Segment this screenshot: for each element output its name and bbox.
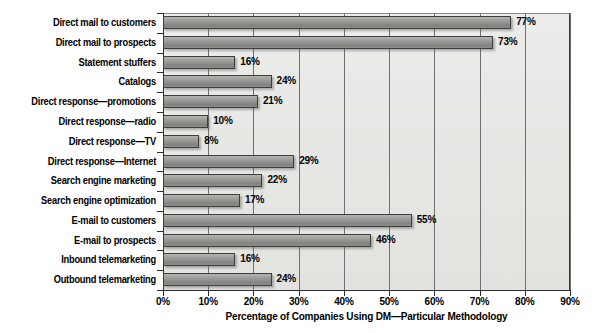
bar-row: 24% (163, 72, 570, 92)
bar-row: 21% (163, 92, 570, 112)
x-axis-tick-label: 0% (143, 296, 183, 307)
bar[interactable] (163, 16, 511, 29)
y-axis-category-labels: Direct mail to customersDirect mail to p… (0, 13, 156, 290)
bar-value-label: 21% (263, 94, 282, 108)
bar-value-label: 73% (498, 35, 517, 49)
x-axis-line (163, 290, 571, 291)
x-axis-tick-label: 60% (414, 296, 454, 307)
bar[interactable] (163, 135, 199, 148)
y-axis-category-label: Catalogs (11, 76, 156, 88)
y-axis-category-label: Direct response—Internet (11, 156, 156, 168)
bar[interactable] (163, 174, 262, 187)
bar[interactable] (163, 75, 272, 88)
bar-row: 8% (163, 132, 570, 152)
bar-value-label: 10% (213, 114, 232, 128)
bar[interactable] (163, 194, 240, 207)
bar[interactable] (163, 36, 493, 49)
bar-value-label: 16% (240, 252, 259, 266)
bar-row: 46% (163, 231, 570, 251)
y-axis-category-label: Direct mail to prospects (11, 37, 156, 49)
bar[interactable] (163, 155, 294, 168)
bar-value-label: 16% (240, 55, 259, 69)
y-axis-tick (157, 290, 163, 291)
bar-value-label: 55% (417, 213, 436, 227)
y-axis-category-label: Direct response—TV (11, 136, 156, 148)
bar-chart: Direct mail to customersDirect mail to p… (0, 0, 598, 333)
y-axis-category-label: Inbound telemarketing (11, 254, 156, 266)
bar-row: 17% (163, 191, 570, 211)
x-axis-tick-label: 40% (324, 296, 364, 307)
y-axis-category-label: Outbound telemarketing (11, 274, 156, 286)
y-axis-category-label: Direct mail to customers (11, 17, 156, 29)
bar-row: 55% (163, 211, 570, 231)
bar-row: 73% (163, 33, 570, 53)
x-axis-tick-label: 50% (369, 296, 409, 307)
bar[interactable] (163, 273, 272, 286)
y-axis-category-label: Search engine optimization (11, 195, 156, 207)
x-axis-tick-label: 10% (188, 296, 228, 307)
bar-value-label: 29% (299, 154, 318, 168)
x-axis-tick-label: 70% (460, 296, 500, 307)
bar-row: 29% (163, 152, 570, 172)
y-axis-category-label: E-mail to customers (11, 215, 156, 227)
gridline (570, 13, 571, 290)
bar[interactable] (163, 234, 371, 247)
y-axis-category-label: E-mail to prospects (11, 235, 156, 247)
bar-value-label: 46% (376, 233, 395, 247)
bar-row: 16% (163, 250, 570, 270)
bar-value-label: 22% (267, 173, 286, 187)
x-axis-title: Percentage of Companies Using DM—Particu… (163, 311, 570, 322)
bar[interactable] (163, 253, 235, 266)
y-axis-category-label: Statement stuffers (11, 57, 156, 69)
bar-value-label: 24% (277, 74, 296, 88)
x-axis-tick-label: 30% (279, 296, 319, 307)
bar-row: 10% (163, 112, 570, 132)
bar[interactable] (163, 95, 258, 108)
y-axis-category-label: Direct response—promotions (11, 96, 156, 108)
bar-row: 77% (163, 13, 570, 33)
bar-row: 16% (163, 53, 570, 73)
x-axis-tick-label: 20% (233, 296, 273, 307)
bar[interactable] (163, 214, 412, 227)
bar[interactable] (163, 56, 235, 69)
bar-value-label: 77% (516, 15, 535, 29)
y-axis-category-label: Search engine marketing (11, 175, 156, 187)
x-axis-tick-label: 80% (505, 296, 545, 307)
y-axis-category-label: Direct response—radio (11, 116, 156, 128)
bar-value-label: 17% (245, 193, 264, 207)
bar-value-label: 24% (277, 272, 296, 286)
bar-value-label: 8% (204, 134, 218, 148)
bar-row: 24% (163, 270, 570, 290)
x-axis-tick-label: 90% (550, 296, 590, 307)
bar-row: 22% (163, 171, 570, 191)
bar[interactable] (163, 115, 208, 128)
